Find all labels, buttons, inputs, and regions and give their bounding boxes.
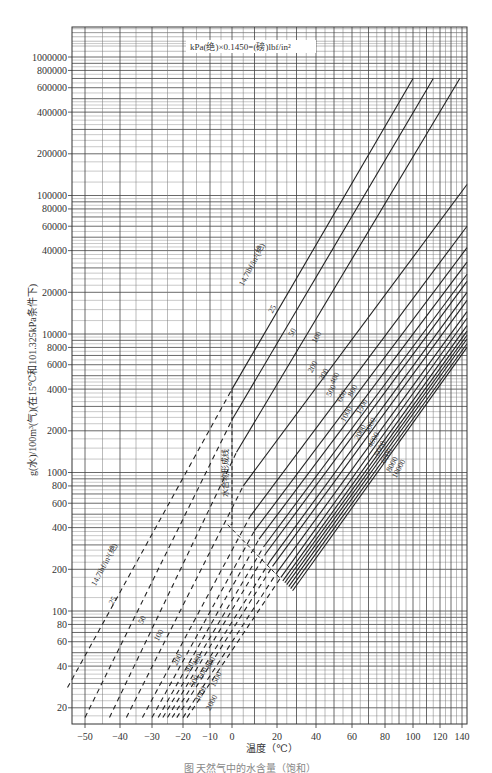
y-tick-label: 60	[57, 636, 67, 647]
y-tick-label: 1000	[47, 467, 67, 478]
x-tick-label: 40	[311, 731, 321, 742]
solid-line-label: 14.7lbf/in²(绝)	[236, 241, 267, 288]
x-tick-label: 60	[347, 731, 357, 742]
y-tick-label: 800000	[37, 65, 67, 76]
y-tick-label: 400000	[37, 107, 67, 118]
x-tick-label: −10	[202, 731, 218, 742]
dashed-line-label: 1500	[208, 670, 223, 688]
y-tick-label: 100000	[37, 190, 67, 201]
unit-note: kPa(绝)×0.1450=(磅)lbf/in²	[186, 40, 316, 53]
dashed-line-label: 2000	[204, 693, 219, 711]
y-axis-ticks: 2040608010020040060080010002000400060008…	[32, 52, 72, 714]
water-content-chart: 水合物形成线 204060801002004006008001000200040…	[0, 0, 492, 773]
y-tick-label: 400	[52, 522, 67, 533]
y-tick-label: 20	[57, 702, 67, 713]
hydrate-formation-line: 水合物形成线	[220, 389, 281, 579]
y-tick-label: 80	[57, 619, 67, 630]
y-tick-label: 2000	[47, 425, 67, 436]
y-tick-label: 10000	[42, 329, 67, 340]
y-tick-label: 60000	[42, 221, 67, 232]
series-lines	[68, 78, 468, 717]
dashed-line-label: 100	[152, 628, 166, 643]
y-axis-label: g(水)/100m³(气)(在15℃和101.325kPa条件下)	[26, 284, 39, 476]
dashed-line-label: 400	[190, 652, 204, 667]
y-tick-label: 1000000	[32, 52, 67, 63]
x-tick-label: −40	[112, 731, 128, 742]
y-tick-label: 4000	[47, 384, 67, 395]
x-tick-label: −30	[144, 731, 160, 742]
y-tick-label: 600	[52, 498, 67, 509]
y-tick-label: 40000	[42, 245, 67, 256]
unit-conversion-note: kPa(绝)×0.1450=(磅)lbf/in²	[190, 41, 291, 52]
dashed-line-label: 50	[136, 614, 148, 625]
x-tick-label: 20	[272, 731, 282, 742]
y-tick-label: 80000	[42, 203, 67, 214]
x-tick-label: −20	[175, 731, 191, 742]
y-tick-label: 200	[52, 564, 67, 575]
y-tick-label: 40	[57, 661, 67, 672]
x-tick-label: 100	[406, 731, 421, 742]
dashed-line-label: 25	[107, 595, 119, 606]
dashed-line-label: 14.7lbf/in²(绝)	[88, 541, 119, 588]
dashed-series-line	[68, 389, 233, 687]
y-tick-label: 20000	[42, 287, 67, 298]
line-labels: 14.7lbf/in²(绝)14.7lbf/in²(绝)252550501001…	[88, 241, 407, 712]
solid-line-label: 100	[310, 330, 324, 345]
dashed-line-label: 200	[171, 652, 185, 667]
x-tick-label: 140	[455, 731, 470, 742]
dashed-line-label: 800	[204, 655, 218, 670]
x-axis-ticks: −50−40−30−20−10020406080100120140	[77, 724, 469, 742]
hydrate-line-label: 水合物形成线	[220, 449, 230, 497]
y-tick-label: 800	[52, 480, 67, 491]
grid	[72, 27, 467, 724]
x-tick-label: 120	[433, 731, 448, 742]
y-tick-label: 6000	[47, 359, 67, 370]
y-tick-label: 600000	[37, 82, 67, 93]
figure-caption: 图 天然气中的水含量（饱和）	[184, 762, 317, 773]
x-tick-label: −50	[77, 731, 93, 742]
solid-series-line	[232, 78, 413, 389]
x-tick-label: 80	[380, 731, 390, 742]
y-tick-label: 100	[52, 606, 67, 617]
x-axis-label: 温度（℃）	[246, 742, 297, 754]
x-tick-label: 0	[230, 731, 235, 742]
y-tick-label: 8000	[47, 342, 67, 353]
y-tick-label: 200000	[37, 148, 67, 159]
solid-line-label: 200	[306, 359, 320, 374]
